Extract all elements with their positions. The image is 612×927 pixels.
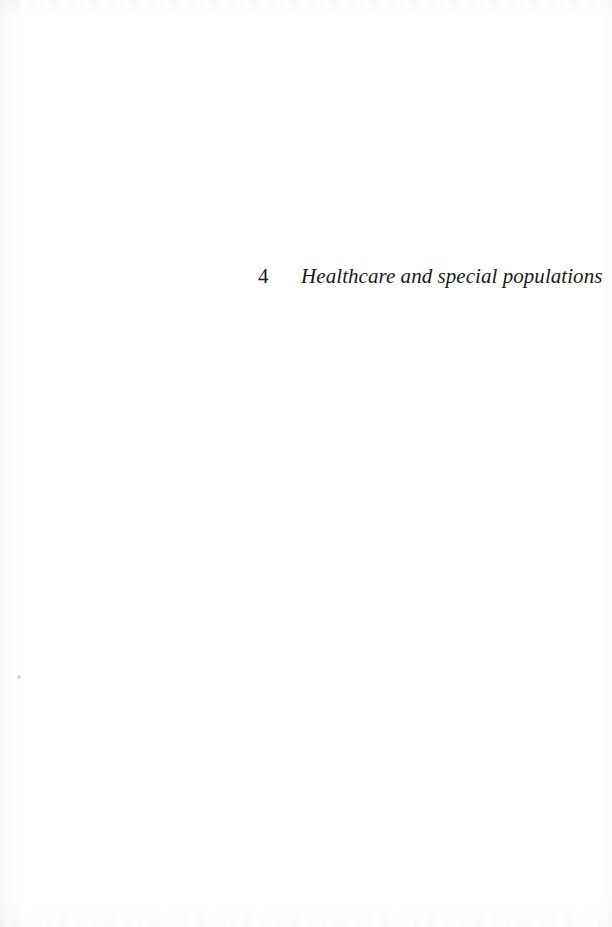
scan-noise-band-bottom — [0, 901, 612, 927]
chapter-title: Healthcare and special populations — [301, 264, 602, 288]
scan-gutter-shadow-right — [598, 0, 612, 927]
chapter-number: 4 — [258, 264, 269, 288]
chapter-heading: 4 Healthcare and special populations — [258, 263, 602, 289]
scan-dust-speck — [17, 675, 21, 679]
scanned-page: 4 Healthcare and special populations — [0, 0, 612, 927]
scan-gutter-shadow-left — [0, 0, 22, 927]
scan-noise-band-top — [0, 0, 612, 16]
